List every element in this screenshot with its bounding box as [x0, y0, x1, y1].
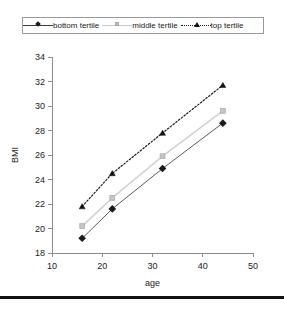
y-tick-label: 30: [35, 101, 45, 111]
data-point-marker: [110, 195, 115, 200]
data-point-marker: [79, 204, 85, 209]
y-tick-label: 24: [35, 175, 45, 185]
chart-page: bottom tertile middle tertile top tertil…: [0, 0, 284, 310]
series-line-top-tertile: [82, 85, 223, 206]
x-tick-label: 30: [147, 261, 157, 271]
series-line-middle-tertile: [82, 111, 223, 226]
x-axis-ticks: 1020304050: [47, 253, 258, 271]
y-tick-label: 32: [35, 77, 45, 87]
data-point-marker: [220, 109, 225, 114]
data-point-marker: [220, 82, 226, 87]
x-tick-label: 10: [47, 261, 57, 271]
y-tick-label: 34: [35, 52, 45, 62]
y-tick-label: 26: [35, 150, 45, 160]
data-point-marker: [160, 154, 165, 159]
footer-divider: [0, 296, 284, 299]
x-tick-label: 40: [198, 261, 208, 271]
y-axis-ticks: 182022242628303234: [35, 52, 52, 258]
x-tick-label: 20: [97, 261, 107, 271]
x-tick-label: 50: [248, 261, 258, 271]
y-tick-label: 28: [35, 126, 45, 136]
chart-canvas: 182022242628303234 1020304050 age BMI: [0, 0, 284, 300]
y-axis-title: BMI: [10, 147, 20, 163]
y-tick-label: 20: [35, 224, 45, 234]
data-point-marker: [80, 224, 85, 229]
series-line-bottom-tertile: [82, 123, 223, 238]
y-tick-label: 22: [35, 199, 45, 209]
y-tick-label: 18: [35, 248, 45, 258]
x-axis-title: age: [145, 278, 160, 288]
data-series-layer: [79, 82, 226, 241]
plot-area: 182022242628303234 1020304050 age BMI: [0, 0, 284, 310]
